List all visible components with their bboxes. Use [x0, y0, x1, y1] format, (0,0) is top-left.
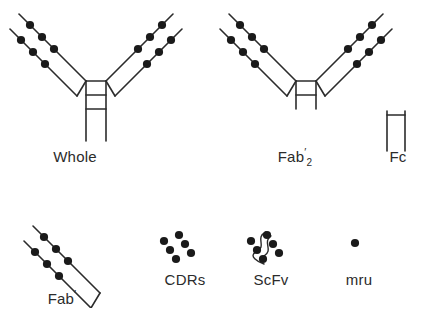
- cdr-dot: [52, 245, 60, 253]
- cdr-dot: [187, 249, 195, 257]
- cdr-dot: [269, 240, 277, 248]
- arm-cdr-dots: [31, 233, 72, 280]
- cdr-dot: [351, 239, 359, 247]
- cdr-dot: [344, 45, 352, 53]
- cdr-dot-cluster: [160, 231, 195, 263]
- label-cdrs-text: CDRs: [165, 271, 206, 288]
- cdr-dot: [353, 60, 361, 68]
- left-arm-elbow: [77, 81, 86, 96]
- label-whole: Whole: [0, 149, 150, 164]
- cdr-dot: [43, 260, 51, 268]
- structure-mru: [348, 236, 362, 250]
- left-arm-elbow: [287, 81, 296, 96]
- structure-whole: [8, 10, 184, 150]
- label-whole-text: Whole: [53, 148, 97, 165]
- cdr-dot: [146, 33, 154, 41]
- left-arm-cdr-dots: [227, 21, 268, 68]
- structure-fab2: [218, 10, 394, 125]
- cdr-dot: [29, 48, 37, 56]
- label-fab2-text: Fab: [278, 148, 304, 165]
- cdr-dot: [155, 48, 163, 56]
- cdr-dot: [260, 45, 268, 53]
- cdrs-graphic: [156, 229, 196, 269]
- right-arm-elbow: [106, 81, 115, 96]
- cdr-dot: [143, 60, 151, 68]
- fab2-graphic: [218, 10, 394, 125]
- cdr-dot: [31, 248, 39, 256]
- right-arm-cdr-dots: [344, 21, 385, 68]
- label-fab-prime-mark: ′: [74, 288, 76, 300]
- cdr-dot: [239, 48, 247, 56]
- cdr-dot: [167, 36, 175, 44]
- cdr-dot: [175, 231, 183, 239]
- cdr-dot: [40, 233, 48, 241]
- cdr-dot: [253, 246, 261, 254]
- left-arm-cdr-dots: [17, 21, 58, 68]
- label-scfv: ScFv: [228, 272, 314, 287]
- cdr-dot: [38, 33, 46, 41]
- right-arm-elbow: [316, 81, 325, 96]
- cdr-dot: [275, 249, 283, 257]
- antibody-fragment-diagram: Whole: [0, 0, 427, 333]
- label-fab-prime: Fab′: [10, 291, 114, 306]
- label-cdrs: CDRs: [140, 272, 230, 287]
- cdr-dot: [356, 33, 364, 41]
- cdr-dot: [166, 246, 174, 254]
- label-fab-prime-text: Fab: [48, 290, 74, 307]
- cdr-dot: [377, 36, 385, 44]
- cdr-dot: [368, 21, 376, 29]
- label-fab2-subscript: 2: [306, 157, 312, 168]
- label-mru-text: mru: [346, 271, 372, 288]
- label-scfv-text: ScFv: [254, 271, 289, 288]
- cdr-dot: [17, 36, 25, 44]
- structure-scfv: [242, 228, 284, 270]
- cdr-dot: [236, 21, 244, 29]
- label-fc: Fc: [372, 149, 424, 164]
- cdr-dot: [26, 21, 34, 29]
- cdr-dot: [50, 45, 58, 53]
- label-fab2: Fab′2: [243, 149, 347, 164]
- cdr-dot: [55, 272, 63, 280]
- cdr-dot: [365, 48, 373, 56]
- whole-antibody-graphic: [8, 10, 184, 150]
- label-mru: mru: [316, 272, 402, 287]
- right-arm-cdr-dots: [134, 21, 175, 68]
- cdr-dot: [134, 45, 142, 53]
- cdr-dot: [227, 36, 235, 44]
- cdr-dot: [181, 240, 189, 248]
- structure-cdrs: [156, 229, 196, 269]
- cdr-dot: [41, 60, 49, 68]
- cdr-dot-cluster: [247, 231, 283, 263]
- cdr-dot: [160, 237, 168, 245]
- scfv-graphic: [242, 228, 284, 270]
- cdr-dot: [259, 255, 267, 263]
- mru-graphic: [348, 236, 362, 250]
- cdr-dot: [64, 257, 72, 265]
- cdr-dot: [263, 231, 271, 239]
- cdr-dot: [247, 237, 255, 245]
- cdr-dot: [158, 21, 166, 29]
- cdr-dot: [248, 33, 256, 41]
- label-fc-text: Fc: [389, 148, 406, 165]
- cdr-dot: [172, 255, 180, 263]
- cdr-dot: [251, 60, 259, 68]
